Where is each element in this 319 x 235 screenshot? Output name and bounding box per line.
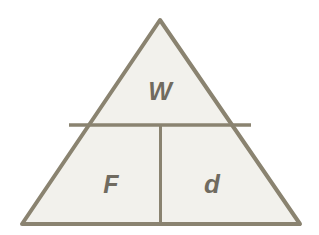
- variable-label-distance: d: [204, 171, 220, 197]
- formula-triangle-figure: W F d: [0, 0, 319, 235]
- formula-triangle-graphic: [0, 0, 319, 235]
- variable-label-work: W: [148, 79, 172, 104]
- variable-label-force: F: [103, 172, 118, 197]
